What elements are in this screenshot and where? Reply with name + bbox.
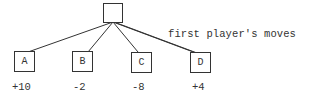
node-b: B xyxy=(72,51,93,72)
node-b-label: B xyxy=(79,56,85,67)
node-c-value: -8 xyxy=(132,81,145,93)
node-c: C xyxy=(131,52,152,73)
node-d: D xyxy=(190,52,211,73)
annotation-first-player-moves: first player's moves xyxy=(168,28,296,40)
node-d-label: D xyxy=(197,57,203,68)
node-d-value: +4 xyxy=(192,81,205,93)
root-node xyxy=(103,3,123,23)
node-a-value: +10 xyxy=(12,81,31,93)
node-a: A xyxy=(14,51,35,72)
node-c-label: C xyxy=(138,57,144,68)
node-a-label: A xyxy=(21,56,27,67)
tree-edges xyxy=(0,0,313,96)
node-b-value: -2 xyxy=(73,81,86,93)
